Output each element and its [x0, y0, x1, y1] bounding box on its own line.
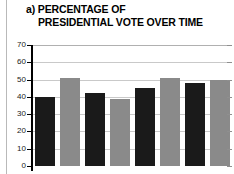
y-axis-tick-right: [227, 62, 232, 63]
y-axis-tick: [27, 62, 32, 63]
bar: [160, 78, 180, 166]
y-axis-tick-label: 70: [2, 41, 26, 49]
y-axis-tick-label: 50: [2, 76, 26, 84]
y-axis-tick-right: [227, 149, 232, 150]
y-axis-tick: [27, 149, 32, 150]
y-axis-tick-label: 30: [2, 110, 26, 118]
y-axis-tick: [27, 97, 32, 98]
y-axis-tick: [27, 80, 32, 81]
y-axis-tick-right: [227, 166, 232, 167]
chart-figure: a) PERCENTAGE OF PRESIDENTIAL VOTE OVER …: [0, 0, 234, 174]
bar: [135, 88, 155, 166]
y-axis-tick-right: [227, 97, 232, 98]
bar: [85, 93, 105, 166]
bar: [110, 99, 130, 166]
bar-series: [32, 45, 232, 166]
y-axis-tick-right: [227, 45, 232, 46]
y-axis-tick-right: [227, 114, 232, 115]
y-axis-tick-label: 20: [2, 127, 26, 135]
bar: [35, 97, 55, 166]
y-axis-tick-label: 40: [2, 93, 26, 101]
y-axis-labels: 010203040506070: [0, 0, 26, 174]
y-axis-tick: [27, 166, 32, 167]
y-axis-tick-label: 60: [2, 58, 26, 66]
y-axis-tick: [27, 114, 32, 115]
y-axis-tick-label: 10: [2, 145, 26, 153]
bar: [210, 80, 230, 166]
y-axis-tick-label: 0: [2, 162, 26, 170]
y-axis-tick: [27, 45, 32, 46]
y-axis-tick-right: [227, 80, 232, 81]
bar: [185, 83, 205, 166]
y-axis-tick: [27, 131, 32, 132]
chart-title-line-1: a) PERCENTAGE OF: [26, 3, 232, 16]
y-axis-tick-right: [227, 131, 232, 132]
chart-title: a) PERCENTAGE OF PRESIDENTIAL VOTE OVER …: [26, 3, 232, 29]
chart-title-line-2: PRESIDENTIAL VOTE OVER TIME: [26, 16, 232, 29]
bar: [60, 78, 80, 166]
